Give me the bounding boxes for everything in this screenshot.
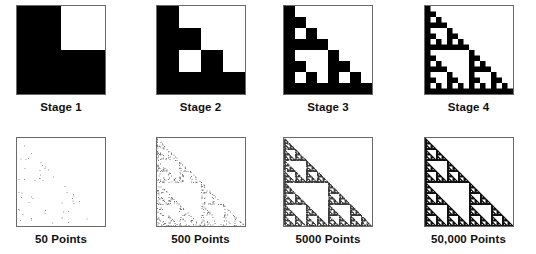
points-panel-3: 5000 Points bbox=[268, 130, 402, 254]
stage-canvas-2 bbox=[157, 6, 245, 94]
stage-panel-4: Stage 4 bbox=[402, 0, 536, 127]
stage-canvas-1 bbox=[17, 6, 105, 94]
points-caption-4: 50,000 Points bbox=[431, 233, 506, 246]
stage-image-1 bbox=[16, 5, 106, 95]
stage-caption-4: Stage 4 bbox=[448, 101, 490, 114]
points-canvas-3 bbox=[284, 138, 372, 226]
stage-canvas-3 bbox=[284, 6, 372, 94]
points-panel-1: 50 Points bbox=[0, 130, 134, 254]
stage-image-3 bbox=[283, 5, 373, 95]
points-caption-1: 50 Points bbox=[35, 233, 87, 246]
stage-caption-3: Stage 3 bbox=[307, 101, 349, 114]
stage-panel-2: Stage 2 bbox=[134, 0, 268, 127]
stage-caption-1: Stage 1 bbox=[40, 101, 82, 114]
points-image-1 bbox=[16, 137, 106, 227]
points-canvas-2 bbox=[157, 138, 245, 226]
points-caption-3: 5000 Points bbox=[295, 233, 360, 246]
points-image-3 bbox=[283, 137, 373, 227]
points-image-4 bbox=[424, 137, 514, 227]
points-caption-2: 500 Points bbox=[171, 233, 230, 246]
points-row: 50 Points 500 Points 5000 Points 50,000 … bbox=[0, 130, 536, 254]
stage-image-4 bbox=[424, 5, 514, 95]
points-image-2 bbox=[156, 137, 246, 227]
stage-caption-2: Stage 2 bbox=[180, 101, 222, 114]
points-panel-4: 50,000 Points bbox=[402, 130, 536, 254]
stage-image-2 bbox=[156, 5, 246, 95]
stage-canvas-4 bbox=[425, 6, 513, 94]
points-panel-2: 500 Points bbox=[134, 130, 268, 254]
points-canvas-1 bbox=[17, 138, 105, 226]
points-canvas-4 bbox=[425, 138, 513, 226]
stage-panel-1: Stage 1 bbox=[0, 0, 134, 127]
stages-row: Stage 1 Stage 2 Stage 3 Stage 4 bbox=[0, 0, 536, 127]
stage-panel-3: Stage 3 bbox=[268, 0, 402, 127]
fractal-figure: Stage 1 Stage 2 Stage 3 Stage 4 bbox=[0, 0, 536, 254]
